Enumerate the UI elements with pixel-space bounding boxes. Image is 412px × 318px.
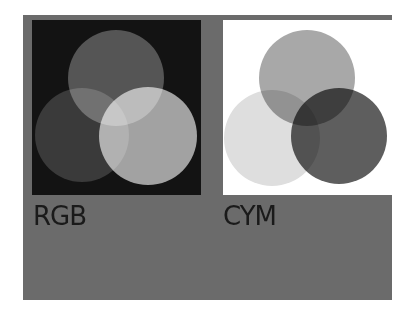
cym-panel [223,20,392,195]
rgb-circle-bottom-right [99,87,197,185]
rgb-venn-diagram [32,20,201,195]
cym-label: CYM [223,201,276,231]
cym-circle-bottom-right [291,88,387,184]
rgb-panel [32,20,201,195]
cym-venn-diagram [223,20,392,195]
rgb-label: RGB [33,201,86,231]
figure-frame: RGB CYM [23,15,392,300]
